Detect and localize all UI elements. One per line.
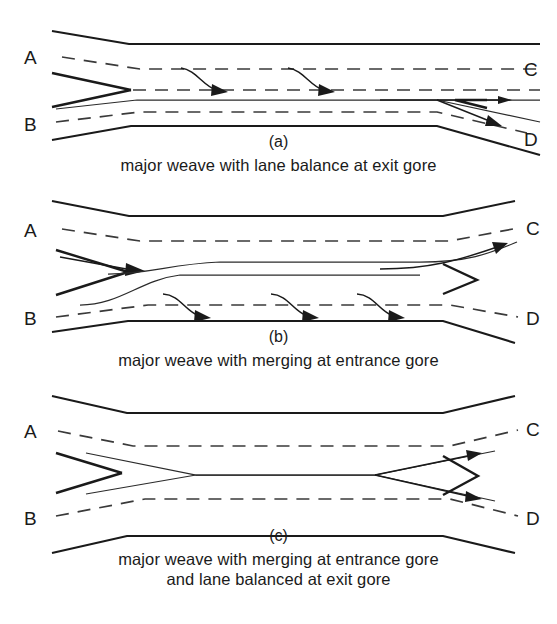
panel-a-sublabel: (a)	[0, 133, 557, 151]
weaving-arrow	[357, 294, 405, 322]
label-B-panel-a: B	[24, 114, 37, 135]
label-D-panel-c: D	[526, 508, 540, 529]
weaving-diagram-figure: A B C D (a) major weave with lane balanc…	[0, 0, 557, 624]
label-C-panel-a: C	[524, 59, 538, 80]
label-B-panel-b: B	[24, 308, 37, 329]
label-B-panel-c: B	[24, 508, 37, 529]
label-A-panel-c: A	[24, 421, 37, 442]
panel-c-sublabel: (c)	[0, 527, 557, 545]
weaving-arrow	[181, 68, 228, 96]
label-C-panel-b: C	[526, 218, 540, 239]
panel-b-caption: major weave with merging at entrance gor…	[0, 350, 557, 370]
panel-c-caption: major weave with merging at entrance gor…	[0, 549, 557, 589]
label-A-panel-b: A	[24, 220, 37, 241]
label-D-panel-b: D	[526, 308, 540, 329]
weaving-arrow	[163, 294, 211, 322]
weaving-arrow	[288, 68, 335, 96]
label-A-panel-a: A	[24, 47, 37, 68]
weaving-arrow	[271, 294, 319, 322]
panel-b-sublabel: (b)	[0, 328, 557, 346]
panel-a-caption: major weave with lane balance at exit go…	[0, 155, 557, 175]
panel-c-caption-line-2: and lane balanced at exit gore	[0, 569, 557, 589]
label-C-panel-c: C	[526, 419, 540, 440]
panel-c-caption-line-1: major weave with merging at entrance gor…	[0, 549, 557, 569]
